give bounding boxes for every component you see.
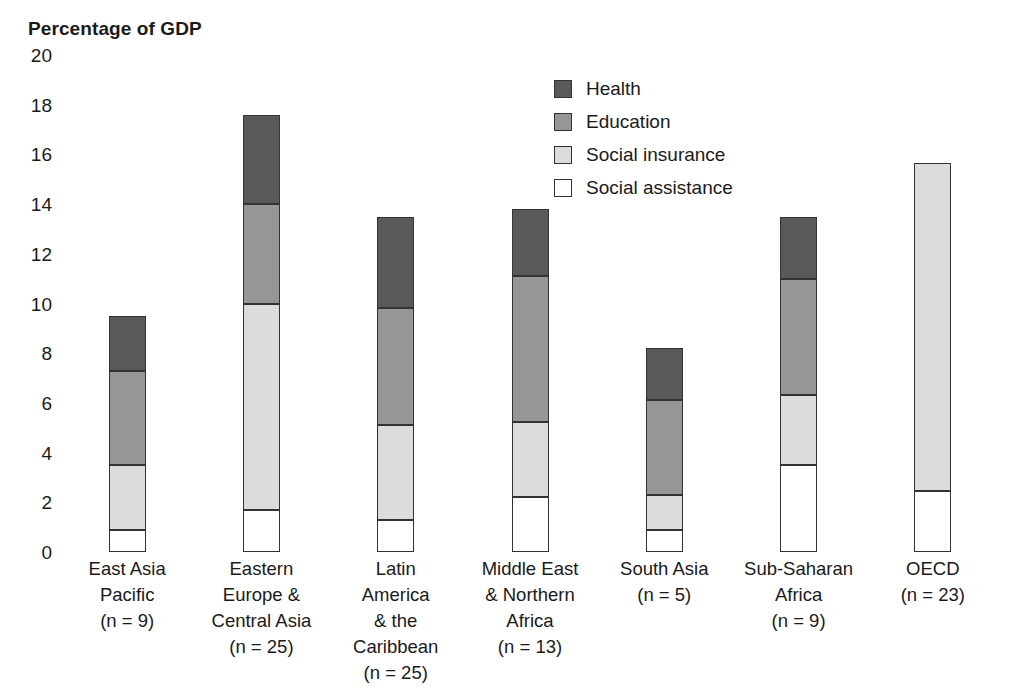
y-axis-tick-label: 16 (0, 145, 52, 164)
bar-segment-education[interactable] (780, 279, 817, 396)
bar-segment-social-assistance[interactable] (512, 497, 549, 552)
x-axis: East AsiaPacific(n = 9)EasternEurope &Ce… (60, 556, 1000, 691)
bar-segment-education[interactable] (243, 204, 280, 303)
bar-segment-health[interactable] (780, 217, 817, 279)
legend-item-label: Health (586, 79, 641, 98)
y-axis-tick-label: 0 (0, 543, 52, 562)
x-axis-label-line: Central Asia (194, 608, 328, 634)
bar-segment-social-insurance[interactable] (243, 304, 280, 510)
bar-group[interactable] (512, 55, 549, 552)
y-axis-tick-label: 8 (0, 344, 52, 363)
bar-group[interactable] (243, 55, 280, 552)
legend-swatch-icon (554, 80, 572, 98)
bar-stack (377, 55, 414, 552)
bar-segment-health[interactable] (109, 316, 146, 371)
bar-segment-social-assistance[interactable] (646, 530, 683, 552)
bar-segment-social-insurance[interactable] (512, 422, 549, 498)
x-axis-category-label: OECD(n = 23) (866, 556, 1000, 608)
bar-segment-education[interactable] (377, 308, 414, 425)
bar-segment-social-insurance[interactable] (377, 425, 414, 519)
x-axis-label-line: Eastern (194, 556, 328, 582)
legend-swatch-icon (554, 179, 572, 197)
bar-segment-education[interactable] (512, 276, 549, 421)
y-axis-tick-label: 20 (0, 46, 52, 65)
bar-segment-social-assistance[interactable] (243, 510, 280, 552)
x-axis-label-line: South Asia (597, 556, 731, 582)
bar-segment-social-insurance[interactable] (914, 163, 951, 491)
bar-group[interactable] (914, 55, 951, 552)
chart-title: Percentage of GDP (28, 18, 202, 40)
y-axis: 20181614121086420 (0, 55, 52, 552)
bar-segment-social-insurance[interactable] (780, 395, 817, 465)
y-axis-tick-label: 2 (0, 493, 52, 512)
bar-stack (512, 55, 549, 552)
y-axis-tick-label: 14 (0, 195, 52, 214)
bar-stack (109, 55, 146, 552)
legend-swatch-icon (554, 113, 572, 131)
plot-area (60, 55, 1000, 552)
bar-segment-health[interactable] (377, 217, 414, 309)
bar-group[interactable] (109, 55, 146, 552)
bar-segment-health[interactable] (512, 209, 549, 276)
y-axis-tick-label: 12 (0, 244, 52, 263)
x-axis-label-line: Latin (329, 556, 463, 582)
bar-group[interactable] (377, 55, 414, 552)
x-axis-category-label: EasternEurope &Central Asia(n = 25) (194, 556, 328, 660)
legend-item-social-assistance[interactable]: Social assistance (554, 171, 854, 204)
legend-item-label: Education (586, 112, 671, 131)
x-axis-label-line: East Asia (60, 556, 194, 582)
x-axis-label-line: Middle East (463, 556, 597, 582)
legend-swatch-icon (554, 146, 572, 164)
bar-segment-social-insurance[interactable] (646, 495, 683, 530)
bar-segment-health[interactable] (243, 115, 280, 204)
x-axis-label-line: (n = 13) (463, 634, 597, 660)
x-axis-label-line: & the (329, 608, 463, 634)
x-axis-label-line: (n = 25) (329, 660, 463, 686)
bar-segment-social-assistance[interactable] (377, 520, 414, 552)
x-axis-label-line: Africa (731, 582, 865, 608)
bar-segment-health[interactable] (646, 348, 683, 400)
y-axis-tick-label: 18 (0, 95, 52, 114)
legend-item-social-insurance[interactable]: Social insurance (554, 138, 854, 171)
bar-segment-social-insurance[interactable] (109, 465, 146, 530)
bar-stack (243, 55, 280, 552)
x-axis-label-line: OECD (866, 556, 1000, 582)
x-axis-category-label: Sub-SaharanAfrica(n = 9) (731, 556, 865, 634)
x-axis-label-line: Caribbean (329, 634, 463, 660)
bar-segment-education[interactable] (646, 400, 683, 494)
bar-segment-education[interactable] (109, 371, 146, 465)
x-axis-category-label: South Asia(n = 5) (597, 556, 731, 608)
y-axis-tick-label: 10 (0, 294, 52, 313)
x-axis-label-line: (n = 9) (60, 608, 194, 634)
x-axis-label-line: Pacific (60, 582, 194, 608)
legend-item-label: Social assistance (586, 178, 733, 197)
x-axis-label-line: (n = 9) (731, 608, 865, 634)
legend-item-label: Social insurance (586, 145, 725, 164)
x-axis-label-line: & Northern (463, 582, 597, 608)
x-axis-category-label: East AsiaPacific(n = 9) (60, 556, 194, 634)
x-axis-label-line: America (329, 582, 463, 608)
x-axis-category-label: LatinAmerica& theCaribbean(n = 25) (329, 556, 463, 686)
legend-item-education[interactable]: Education (554, 105, 854, 138)
bar-stack (914, 55, 951, 552)
x-axis-category-label: Middle East& NorthernAfrica(n = 13) (463, 556, 597, 660)
x-axis-label-line: (n = 5) (597, 582, 731, 608)
x-axis-label-line: Europe & (194, 582, 328, 608)
y-axis-tick-label: 4 (0, 443, 52, 462)
bar-segment-social-assistance[interactable] (109, 530, 146, 552)
x-axis-label-line: (n = 25) (194, 634, 328, 660)
chart-container: Percentage of GDP 20181614121086420 East… (0, 0, 1014, 695)
x-axis-label-line: Africa (463, 608, 597, 634)
x-axis-label-line: Sub-Saharan (731, 556, 865, 582)
bar-segment-social-assistance[interactable] (780, 465, 817, 552)
bar-segment-social-assistance[interactable] (914, 491, 951, 552)
x-axis-label-line: (n = 23) (866, 582, 1000, 608)
legend-item-health[interactable]: Health (554, 72, 854, 105)
y-axis-tick-label: 6 (0, 393, 52, 412)
chart-legend: HealthEducationSocial insuranceSocial as… (554, 72, 854, 204)
